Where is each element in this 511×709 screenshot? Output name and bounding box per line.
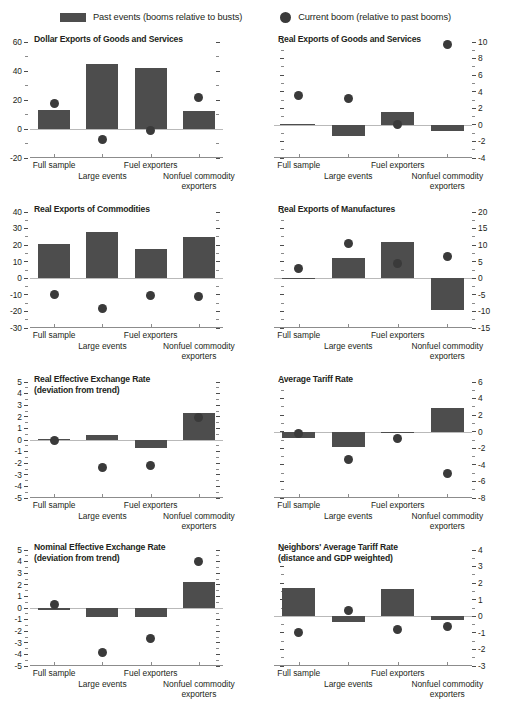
y-tick-label: -5	[15, 662, 22, 670]
y-tick-label: 10	[13, 258, 22, 266]
plot-area: Full sampleLarge eventsFuel exportersNon…	[274, 382, 472, 498]
tick-mark	[24, 584, 28, 585]
y-tick-label: 6	[478, 378, 483, 386]
bar	[332, 616, 365, 622]
bar	[381, 589, 414, 616]
plot-area-wrapper: Dollar Exports of Goods and ServicesFull…	[0, 34, 255, 204]
tick-mark	[24, 428, 28, 429]
x-tick-mark	[151, 662, 152, 666]
tick-mark	[472, 456, 475, 457]
y-tick-label: -2	[478, 444, 485, 452]
tick-mark	[472, 550, 476, 551]
tick-mark	[24, 100, 28, 101]
tick-mark	[472, 270, 475, 271]
tick-mark	[24, 382, 28, 383]
tick-mark	[25, 114, 28, 115]
legend-label-current-boom: Current boom (relative to past booms)	[298, 12, 451, 22]
tick-mark	[472, 666, 476, 667]
tick-mark	[472, 390, 475, 391]
x-tick-mark	[102, 154, 103, 158]
tick-mark	[24, 405, 28, 406]
x-tick-mark	[447, 494, 448, 498]
category-label: Nonfuel commodityexporters	[411, 341, 483, 361]
data-point-marker	[146, 126, 155, 135]
bar	[282, 588, 315, 616]
tick-mark	[25, 56, 28, 57]
y-tick-label: 3	[17, 569, 22, 577]
dot-swatch-icon	[280, 12, 291, 23]
bar	[431, 616, 464, 619]
data-point-marker	[344, 606, 353, 615]
category-label: Full sample	[277, 330, 320, 340]
panel-title-line: Real Exports of Goods and Services	[278, 34, 421, 45]
y-tick-label: 4	[17, 557, 22, 565]
bar-series	[30, 382, 223, 498]
category-label-line: exporters	[411, 351, 483, 361]
tick-mark	[24, 294, 28, 295]
bar	[38, 244, 70, 278]
bar	[86, 64, 118, 129]
tick-mark	[25, 590, 28, 591]
bar-series	[274, 212, 472, 328]
panel-title-line: Nominal Effective Exchange Rate	[34, 542, 165, 553]
tick-mark	[25, 625, 28, 626]
tick-mark	[472, 253, 475, 254]
x-tick-mark	[398, 662, 399, 666]
y-tick-label: -8	[478, 494, 485, 502]
category-label-line: Nonfuel commodity	[163, 679, 235, 689]
y-tick-label: -2	[478, 645, 485, 653]
y-tick-label: -20	[10, 307, 22, 315]
category-label: Nonfuel commodityexporters	[411, 679, 483, 699]
y-tick-label: 5	[17, 546, 22, 554]
data-point-marker	[50, 600, 59, 609]
tick-mark	[24, 573, 28, 574]
y-tick-label: 20	[13, 96, 22, 104]
tick-mark	[472, 608, 475, 609]
x-tick-mark	[348, 154, 349, 158]
y-axis-right: -4-20246810	[472, 42, 508, 158]
panel-subtitle-line: (distance and GDP weighted)	[278, 553, 398, 564]
tick-mark	[24, 212, 28, 213]
category-label-line: exporters	[163, 351, 235, 361]
y-tick-label: -3	[15, 639, 22, 647]
y-tick-label: 3	[478, 562, 483, 570]
y-tick-label: 40	[13, 208, 22, 216]
x-tick-mark	[199, 154, 200, 158]
tick-mark	[24, 631, 28, 632]
tick-mark	[24, 261, 28, 262]
bar	[282, 278, 315, 279]
category-label: Nonfuel commodityexporters	[411, 171, 483, 191]
data-point-marker	[443, 252, 452, 261]
bar	[332, 125, 365, 137]
bar-series	[274, 382, 472, 498]
y-tick-label: 8	[478, 54, 483, 62]
tick-mark	[24, 71, 28, 72]
x-tick-mark	[447, 324, 448, 328]
x-tick-mark	[199, 662, 200, 666]
data-point-marker	[344, 239, 353, 248]
x-tick-mark	[299, 324, 300, 328]
category-label: Large events	[324, 171, 372, 181]
category-label: Nonfuel commodityexporters	[411, 511, 483, 531]
y-axis-left: -5-4-3-2-1012345	[0, 382, 28, 498]
y-tick-label: 1	[17, 424, 22, 432]
tick-mark	[472, 83, 475, 84]
bar	[431, 278, 464, 309]
y-tick-label: 0	[478, 121, 483, 129]
x-tick-mark	[54, 324, 55, 328]
plot-area: Full sampleLarge eventsFuel exportersNon…	[30, 382, 223, 498]
tick-mark	[472, 50, 475, 51]
tick-mark	[25, 567, 28, 568]
y-tick-label: 0	[17, 436, 22, 444]
tick-mark	[472, 632, 476, 633]
tick-mark	[472, 91, 476, 92]
y-tick-label: 4	[478, 394, 483, 402]
y-axis-right: -3-2-101234	[472, 550, 508, 666]
bar-series	[274, 550, 472, 666]
bar	[135, 440, 167, 448]
tick-mark	[25, 143, 28, 144]
y-tick-label: -5	[15, 494, 22, 502]
chart-panel: Real Exports of ManufacturesFull sampleL…	[256, 204, 511, 374]
x-tick-mark	[199, 324, 200, 328]
tick-mark	[25, 411, 28, 412]
